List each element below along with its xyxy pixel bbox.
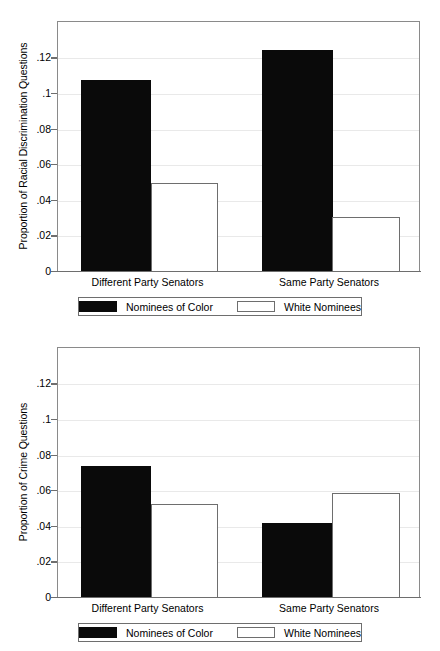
bar-white-nominees xyxy=(332,217,400,272)
y-axis-tick-group: 0.02.04.06.08.1.12 xyxy=(0,326,51,651)
y-axis-tick-label: 0 xyxy=(25,592,51,602)
y-axis-tick-label: .06 xyxy=(25,159,51,169)
bar-nominees-of-color xyxy=(81,466,151,598)
legend-label-white-nominees: White Nominees xyxy=(284,301,361,313)
crime-questions-panel: Proportion of Crime Questions 0.02.04.06… xyxy=(0,326,440,651)
legend-label-nominees-of-color: Nominees of Color xyxy=(126,627,213,639)
y-axis-tick-label: .12 xyxy=(25,52,51,62)
category-label-same-party: Same Party Senators xyxy=(238,276,420,288)
bar-nominees-of-color xyxy=(81,80,151,272)
white-outline-swatch-icon xyxy=(237,301,275,312)
y-axis-tick-label: .1 xyxy=(25,414,51,424)
category-label-different-party: Different Party Senators xyxy=(57,602,238,614)
y-axis-tick-label: .12 xyxy=(25,378,51,388)
y-axis-tick-label: 0 xyxy=(25,266,51,276)
x-axis-baseline xyxy=(52,597,421,598)
legend-entry-nominees-of-color: Nominees of Color xyxy=(79,301,213,313)
black-filled-swatch-icon xyxy=(79,301,117,312)
bar-nominees-of-color xyxy=(262,50,333,272)
legend-entry-white-nominees: White Nominees xyxy=(237,301,361,313)
legend: Nominees of Color White Nominees xyxy=(78,623,362,642)
gridline xyxy=(58,384,419,385)
y-axis-tick-label: .04 xyxy=(25,195,51,205)
category-label-same-party: Same Party Senators xyxy=(238,602,420,614)
plot-area xyxy=(57,21,420,271)
racial-discrimination-panel: Proportion of Racial Discrimination Ques… xyxy=(0,0,440,325)
bar-white-nominees xyxy=(332,493,400,598)
legend: Nominees of Color White Nominees xyxy=(78,297,362,316)
y-axis-tick-label: .1 xyxy=(25,88,51,98)
y-axis-tick-label: .06 xyxy=(25,485,51,495)
legend-entry-white-nominees: White Nominees xyxy=(237,627,361,639)
bar-white-nominees xyxy=(151,504,218,598)
legend-entry-nominees-of-color: Nominees of Color xyxy=(79,627,213,639)
gridline xyxy=(58,420,419,421)
plot-area xyxy=(57,347,420,597)
category-label-different-party: Different Party Senators xyxy=(57,276,238,288)
legend-label-nominees-of-color: Nominees of Color xyxy=(126,301,213,313)
figure-root: Proportion of Racial Discrimination Ques… xyxy=(0,0,440,651)
y-axis-tick-label: .02 xyxy=(25,556,51,566)
bar-nominees-of-color xyxy=(262,523,333,598)
bar-white-nominees xyxy=(151,183,218,272)
y-axis-tick-label: .08 xyxy=(25,124,51,134)
gridline xyxy=(58,456,419,457)
white-outline-swatch-icon xyxy=(237,627,275,638)
y-axis-tick-label: .02 xyxy=(25,230,51,240)
black-filled-swatch-icon xyxy=(79,627,117,638)
x-axis-baseline xyxy=(52,271,421,272)
y-axis-tick-label: .08 xyxy=(25,450,51,460)
legend-label-white-nominees: White Nominees xyxy=(284,627,361,639)
gridline xyxy=(58,58,419,59)
y-axis-tick-label: .04 xyxy=(25,521,51,531)
